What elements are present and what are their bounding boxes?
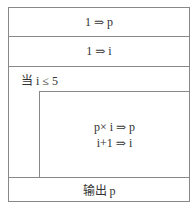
step-init-i: 1 ⇒ i [9,37,189,67]
step-label: 1 ⇒ p [85,15,113,30]
loop-condition: 当 i ≤ 5 [21,71,58,89]
loop-statement: i+1 ⇒ i [97,135,133,151]
while-loop: 当 i ≤ 5 p× i ⇒ p i+1 ⇒ i [9,67,189,178]
output-label: 输出 p [83,181,116,199]
step-label: 1 ⇒ i [86,44,111,59]
ns-flowchart: 1 ⇒ p 1 ⇒ i 当 i ≤ 5 p× i ⇒ p i+1 ⇒ i 输出 … [8,7,190,202]
step-init-p: 1 ⇒ p [9,8,189,37]
loop-body: p× i ⇒ p i+1 ⇒ i [39,91,189,177]
loop-statement: p× i ⇒ p [94,119,135,135]
output-step: 输出 p [9,178,189,201]
